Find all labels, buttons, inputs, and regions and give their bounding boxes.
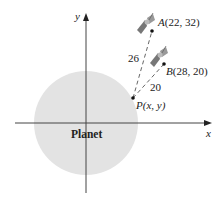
point-A: [150, 29, 154, 33]
label-A: A(22, 32): [157, 16, 200, 29]
distance-PB: 20: [150, 81, 162, 93]
y-axis-label: y: [74, 10, 80, 22]
planet-label: Planet: [71, 128, 102, 140]
x-axis-label: x: [205, 127, 211, 139]
diagram-canvas: y x A(22, 32) B(28, 20) P(x, y) 26 20 Pl…: [0, 0, 224, 205]
point-P: [131, 96, 135, 100]
label-B: B(28, 20): [166, 65, 208, 78]
label-P: P(x, y): [135, 99, 166, 112]
x-axis-arrow-icon: [204, 120, 212, 126]
y-axis-arrow-icon: [83, 13, 89, 21]
distance-PA: 26: [128, 52, 140, 64]
